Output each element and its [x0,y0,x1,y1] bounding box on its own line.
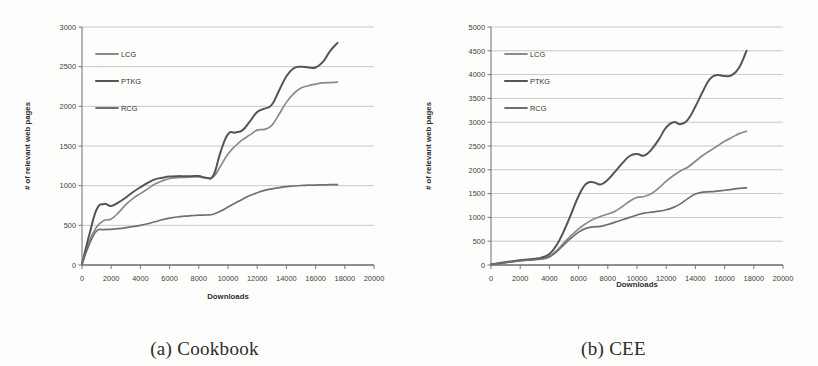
x-tick-label-2000: 2000 [512,274,528,283]
x-tick-label-2000: 2000 [103,274,119,283]
legend-label-rcg: RCG [530,104,547,113]
y-tick-label-500: 500 [64,221,76,230]
x-tick-label-8000: 8000 [191,274,207,283]
panel-caption-b: (b) CEE [409,338,818,360]
legend-label-rcg: RCG [121,104,138,113]
y-tick-label-3000: 3000 [60,23,76,32]
series-line-rcg [82,185,338,265]
chart-b-canvas: 0500100015002000250030003500400045005000… [409,0,818,312]
x-tick-label-4000: 4000 [132,274,148,283]
x-tick-label-20000: 20000 [364,274,385,283]
legend-label-ptkg: PTKG [530,77,550,86]
x-tick-label-0: 0 [80,274,84,283]
y-tick-label-0: 0 [72,261,76,270]
x-tick-label-18000: 18000 [744,274,765,283]
y-tick-label-3000: 3000 [469,118,485,127]
y-tick-label-4000: 4000 [469,70,485,79]
x-tick-label-16000: 16000 [714,274,735,283]
gridlines-group [82,27,374,265]
legend-label-lcg: LCG [530,50,545,59]
series-line-lcg [491,131,747,264]
series-line-rcg [491,188,747,265]
line-chart-b: 0500100015002000250030003500400045005000… [409,0,818,312]
x-tick-label-18000: 18000 [335,274,356,283]
x-axis-title: Downloads [616,280,658,289]
y-tick-label-500: 500 [473,237,485,246]
y-tick-label-2000: 2000 [60,102,76,111]
y-tick-label-4500: 4500 [469,47,485,56]
legend-label-ptkg: PTKG [121,77,141,86]
x-tick-label-12000: 12000 [247,274,268,283]
chart-a-canvas: 0500100015002000250030000200040006000800… [0,0,409,312]
x-tick-label-0: 0 [489,274,493,283]
x-tick-label-10000: 10000 [218,274,239,283]
legend-group: LCGPTKGRCG [96,50,141,113]
legend-group: LCGPTKGRCG [505,50,550,113]
line-chart-a: 0500100015002000250030000200040006000800… [0,0,409,312]
x-axis-ticks-group: 0200040006000800010000120001400016000180… [80,265,384,283]
chart-panel-a: 0500100015002000250030000200040006000800… [0,0,409,366]
y-tick-label-2500: 2500 [60,62,76,71]
panel-caption-a: (a) Cookbook [0,338,409,360]
x-tick-label-6000: 6000 [570,274,586,283]
figure-row: 0500100015002000250030000200040006000800… [0,0,818,366]
gridlines-group [491,27,783,265]
x-tick-label-8000: 8000 [600,274,616,283]
x-tick-label-4000: 4000 [541,274,557,283]
x-tick-label-6000: 6000 [161,274,177,283]
x-tick-label-16000: 16000 [305,274,326,283]
y-tick-label-2000: 2000 [469,166,485,175]
legend-label-lcg: LCG [121,50,136,59]
y-tick-label-5000: 5000 [469,23,485,32]
y-tick-label-1500: 1500 [469,189,485,198]
y-tick-label-0: 0 [481,261,485,270]
x-tick-label-14000: 14000 [685,274,706,283]
y-tick-label-3500: 3500 [469,94,485,103]
x-tick-label-20000: 20000 [773,274,794,283]
y-tick-label-2500: 2500 [469,142,485,151]
y-axis-ticks-group: 0500100015002000250030003500400045005000 [469,23,491,270]
y-axis-title: # of relevant web pages [23,101,32,190]
y-axis-ticks-group: 050010001500200025003000 [60,23,82,270]
y-tick-label-1000: 1000 [469,213,485,222]
x-tick-label-12000: 12000 [656,274,677,283]
y-tick-label-1500: 1500 [60,142,76,151]
x-axis-title: Downloads [207,292,249,301]
chart-panel-b: 0500100015002000250030003500400045005000… [409,0,818,366]
y-axis-title: # of relevant web pages [424,101,433,190]
y-tick-label-1000: 1000 [60,181,76,190]
x-tick-label-14000: 14000 [276,274,297,283]
